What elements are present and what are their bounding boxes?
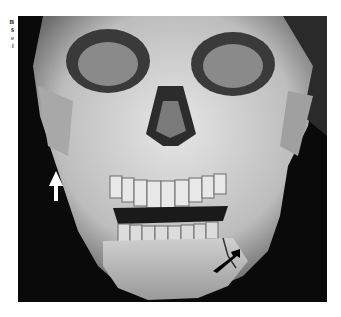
caption-fragment: s <box>0 26 14 34</box>
caption-fragment: f <box>0 42 14 50</box>
skull-illustration <box>18 16 327 302</box>
caption-fragment: e <box>0 34 14 42</box>
cropped-caption-text: n s e f <box>0 18 14 50</box>
skull-ct-photo <box>18 16 327 302</box>
